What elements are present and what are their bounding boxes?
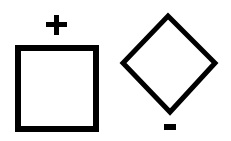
minus-icon [164, 124, 176, 130]
diamond-group [123, 16, 215, 130]
plus-icon [46, 15, 67, 35]
diagram-canvas [0, 0, 231, 141]
square-group [18, 15, 96, 129]
square-shape [18, 48, 96, 129]
diamond-shape [123, 16, 215, 112]
